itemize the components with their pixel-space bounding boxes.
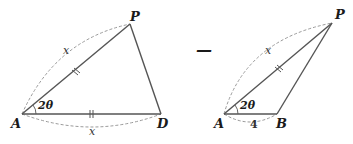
arc-label-x-right: x (265, 44, 272, 57)
edge-pd-left (130, 24, 161, 114)
arc-label-x-bottom-left: x (89, 125, 96, 138)
angle-arc-left (33, 105, 36, 114)
vertex-label-a-left: A (9, 116, 21, 131)
angle-arc-right (235, 105, 238, 114)
angle-label-right: 2θ (239, 99, 256, 112)
vertex-label-p-right: P (334, 7, 346, 22)
minus-operator: — (196, 41, 212, 60)
diagram-canvas: A P D 2θ x x — A P B 2θ x 4 (0, 0, 353, 144)
vertex-label-a-right: A (212, 116, 224, 131)
vertex-label-p-left: P (129, 9, 141, 24)
arc-label-x-top-left: x (63, 44, 70, 57)
angle-label-left: 2θ (37, 99, 54, 112)
arc-label-4-right: 4 (250, 118, 258, 131)
equal-mark-ap-left (72, 68, 80, 75)
vertex-label-d-left: D (156, 116, 169, 131)
vertex-label-b-right: B (275, 116, 287, 131)
right-figure: A P B 2θ x 4 (212, 7, 346, 131)
edge-pb-right (277, 23, 332, 114)
left-figure: A P D 2θ x x (9, 9, 169, 138)
